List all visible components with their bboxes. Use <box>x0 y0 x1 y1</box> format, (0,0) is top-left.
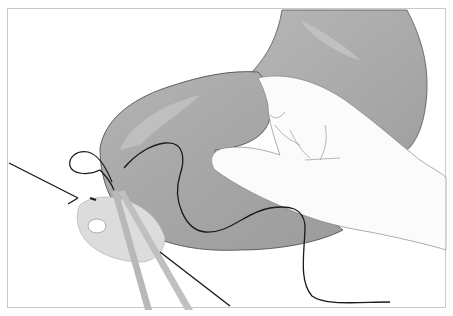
duodenum-lumen <box>88 219 106 233</box>
illustration-canvas <box>0 0 453 316</box>
suture-needle-left <box>9 163 78 204</box>
surgical-illustration <box>0 0 453 316</box>
